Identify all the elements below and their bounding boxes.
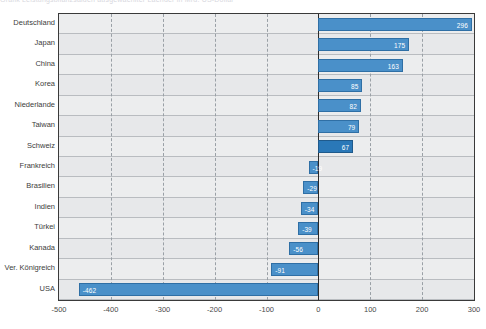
chart-row [59,96,474,116]
bar: -56 [289,242,318,255]
chart-row [59,116,474,136]
faint-header-text: Grafik Leistungsbilanzsalden ausgewaehlt… [0,0,486,5]
x-tick-label: 100 [364,305,377,314]
x-tick-label: 0 [316,305,320,314]
category-label: Kanada [1,238,55,258]
x-tick-label: -200 [207,305,222,314]
category-label: Frankreich [1,156,55,176]
bar-value-label: 82 [349,100,356,113]
x-tick-label: -500 [51,305,66,314]
chart-row [59,198,474,218]
category-label: Japan [1,33,55,53]
category-label: Taiwan [1,115,55,135]
chart-row [59,259,474,279]
category-label: Niederlande [1,95,55,115]
bar-value-label: 175 [394,39,405,52]
bar: -462 [79,283,319,296]
bar-value-label: -34 [305,203,315,216]
bar: -91 [271,263,318,276]
bar: 296 [318,18,472,31]
x-tick-label: 200 [416,305,429,314]
bar: -34 [301,202,319,215]
bar-value-label: -39 [302,223,312,236]
category-label: Brasilien [1,176,55,196]
category-label: USA [1,279,55,299]
bar-value-label: 67 [342,141,349,154]
category-label: Deutschland [1,13,55,33]
category-label: China [1,54,55,74]
chart-row [59,34,474,54]
bar: 175 [318,38,409,51]
bar: -39 [298,222,318,235]
bar-value-label: -91 [275,264,285,277]
bar-chart: Grafik Leistungsbilanzsalden ausgewaehlt… [0,0,486,329]
x-axis: -500-400-300-200-1000100200300 [58,303,475,323]
plot-area: 29617516385827967-19-29-34-39-56-91-462 [58,13,475,301]
category-label: Ver. Königreich [1,258,55,278]
bar: 85 [318,79,362,92]
bar-value-label: -29 [307,182,317,195]
x-tick-label: 300 [468,305,481,314]
category-label: Türkei [1,217,55,237]
bar: 82 [318,99,361,112]
bar-value-label: -19 [313,162,323,175]
bar-value-label: -462 [83,284,96,297]
bar: 163 [318,59,403,72]
bar-value-label: 79 [348,121,355,134]
chart-row [59,137,474,157]
chart-row [59,218,474,238]
chart-row [59,55,474,75]
x-tick-label: -100 [259,305,274,314]
category-label: Indien [1,197,55,217]
bar: -19 [309,161,319,174]
x-tick-label: -300 [155,305,170,314]
category-axis: DeutschlandJapanChinaKoreaNiederlandeTai… [0,13,55,301]
category-label: Korea [1,74,55,94]
bar: 79 [318,120,359,133]
bar-value-label: 163 [388,60,399,73]
bar-value-label: -56 [293,243,303,256]
x-tick-label: -400 [103,305,118,314]
chart-row [59,239,474,259]
chart-row [59,177,474,197]
chart-row [59,157,474,177]
zero-axis-line [318,14,319,300]
bar-value-label: 296 [457,19,468,32]
bar: -29 [303,181,318,194]
bar-value-label: 85 [351,80,358,93]
chart-row [59,75,474,95]
bar: 67 [318,140,353,153]
category-label: Schweiz [1,136,55,156]
